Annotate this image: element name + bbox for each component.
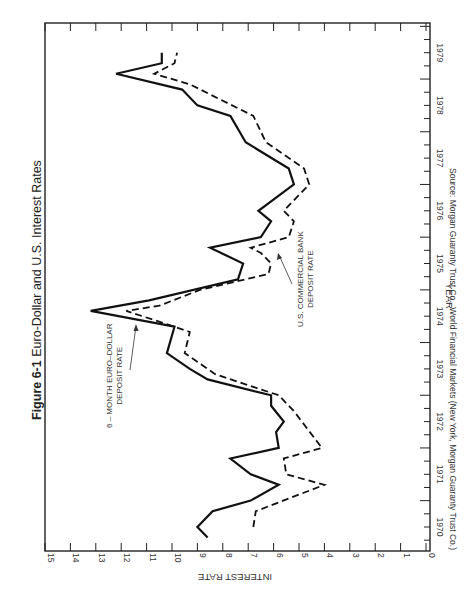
year-tick-label: 1975 [435, 254, 445, 273]
euro-annotation-line1: 6 – MONTH EURO–DOLLAR [105, 324, 115, 428]
us-deposit-rate-line [126, 53, 324, 527]
year-tick-label: 1971 [435, 465, 445, 484]
rate-tick-label: 6 [275, 553, 285, 558]
euro-annotation-line2: DEPOSIT RATE [115, 324, 125, 428]
chart-canvas: 0123456789101112131415 19701971197219731… [0, 0, 471, 611]
euro-dollar-rate-line [91, 53, 294, 538]
rate-tick-label: 7 [249, 553, 259, 558]
figure-label: Figure 6-1 [30, 360, 44, 420]
us-annotation-line1: U.S. COMMERCIAL BANK [296, 231, 306, 327]
year-tick-label: 1976 [435, 201, 445, 220]
rate-tick-label: 9 [198, 553, 208, 558]
rate-tick-label: 3 [351, 553, 361, 558]
rate-tick-label: 2 [376, 553, 386, 558]
source-note: Source: Morgan Guaranty Trust Co., World… [448, 168, 458, 550]
year-tick-label: 1979 [435, 43, 445, 62]
us-annotation-arrow [279, 255, 292, 284]
year-tick-label: 1978 [435, 96, 445, 115]
rate-tick-label: 15 [46, 553, 56, 563]
y-axis-label: INTEREST RATE [198, 572, 272, 583]
year-tick-label: 1974 [435, 307, 445, 326]
plot-border [45, 23, 430, 551]
plot-frame [45, 23, 430, 551]
year-axis: 1970197119721973197419751976197719781979 [420, 26, 445, 540]
rate-tick-label: 13 [97, 553, 107, 563]
us-annotation-line2: DEPOSIT RATE [306, 231, 316, 327]
rate-tick-label: 4 [325, 553, 335, 558]
interest-rate-axis: 0123456789101112131415 [45, 23, 437, 563]
year-tick-label: 1973 [435, 359, 445, 378]
rate-tick-label: 11 [148, 553, 158, 562]
year-tick-label: 1977 [435, 149, 445, 168]
figure-title-text: Euro-Dollar and U.S. Interest Rates [30, 160, 44, 357]
year-tick-label: 1972 [435, 412, 445, 431]
figure-title: Figure 6-1 Euro-Dollar and U.S. Interest… [30, 160, 44, 420]
rate-tick-label: 5 [300, 553, 310, 558]
us-annotation-arrowhead [277, 253, 282, 260]
euro-annotation-arrowhead [134, 324, 139, 331]
rate-tick-label: 12 [122, 553, 132, 563]
rate-tick-label: 10 [173, 553, 183, 563]
rate-tick-label: 0 [427, 553, 437, 558]
euro-annotation-arrow [130, 326, 136, 370]
x-axis-label: YEAR [444, 283, 455, 309]
euro-dollar-annotation: 6 – MONTH EURO–DOLLAR DEPOSIT RATE [105, 324, 125, 428]
year-tick-label: 1970 [435, 518, 445, 537]
rate-tick-label: 14 [71, 553, 81, 563]
rate-tick-label: 1 [402, 553, 412, 558]
us-bank-annotation: U.S. COMMERCIAL BANK DEPOSIT RATE [296, 231, 316, 327]
rate-tick-label: 8 [224, 553, 234, 558]
